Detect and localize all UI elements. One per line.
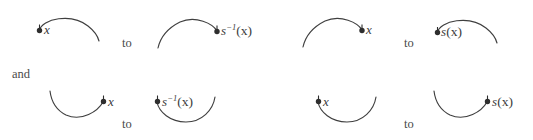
arc-curve [158, 38, 222, 72]
arc-curve [303, 40, 367, 74]
to-label-2: to [404, 37, 414, 50]
bottom-arc-2-label: s−1(x) [162, 95, 193, 109]
arc-curve [434, 100, 498, 134]
top-arc-3-label: x [366, 23, 372, 36]
to-label-4: to [404, 118, 414, 131]
top-arc-4-label: s(x) [441, 25, 462, 39]
bottom-arc-4-label: s(x) [492, 95, 513, 109]
and-label: and [12, 68, 30, 81]
arc-curve [50, 100, 114, 134]
top-arc-2-label: s−1(x) [221, 24, 252, 38]
to-label-1: to [122, 37, 132, 50]
top-arc-1-label: x [44, 23, 50, 36]
bottom-arc-3-label: x [323, 95, 329, 108]
to-label-3: to [122, 118, 132, 131]
bottom-arc-1-label: x [108, 95, 114, 108]
arc-transformation-figure: x to s−1(x) x to [0, 0, 533, 140]
